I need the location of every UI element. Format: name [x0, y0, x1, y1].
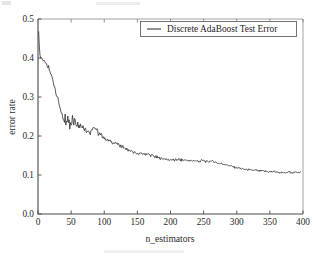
series-line-discrete-adaboost-test-error	[39, 32, 301, 174]
x-tick-label: 300	[230, 217, 244, 227]
y-tick-label: 0.0	[22, 209, 34, 219]
x-tick-label: 350	[263, 217, 277, 227]
x-axis-tick-labels: 050100150200250300350400	[36, 217, 311, 227]
x-tick-label: 100	[97, 217, 111, 227]
x-axis-ticks	[38, 19, 303, 214]
scan-artifact-bottom	[104, 250, 184, 253]
legend-label: Discrete AdaBoost Test Error	[167, 24, 278, 34]
axis-spines	[38, 19, 303, 214]
x-tick-label: 0	[36, 217, 41, 227]
y-axis-label: error rate	[6, 99, 17, 134]
y-axis-tick-labels: 0.00.10.20.30.40.5	[22, 14, 34, 219]
scan-artifact-top	[96, 2, 140, 5]
x-tick-label: 200	[164, 217, 178, 227]
x-tick-label: 50	[66, 217, 76, 227]
y-tick-label: 0.5	[22, 14, 34, 24]
figure-canvas: 050100150200250300350400 0.00.10.20.30.4…	[0, 0, 317, 259]
y-tick-label: 0.4	[22, 53, 34, 63]
legend: Discrete AdaBoost Test Error	[141, 22, 297, 37]
y-tick-label: 0.2	[22, 131, 34, 141]
y-tick-label: 0.3	[22, 92, 34, 102]
axis-top-spine	[38, 19, 303, 214]
x-tick-label: 250	[197, 217, 211, 227]
line-chart: 050100150200250300350400 0.00.10.20.30.4…	[0, 0, 317, 259]
x-tick-label: 400	[296, 217, 310, 227]
x-tick-label: 150	[130, 217, 144, 227]
scan-artifact-top-left	[2, 1, 11, 5]
x-axis-label: n_estimators	[145, 233, 194, 244]
y-tick-label: 0.1	[22, 170, 34, 180]
